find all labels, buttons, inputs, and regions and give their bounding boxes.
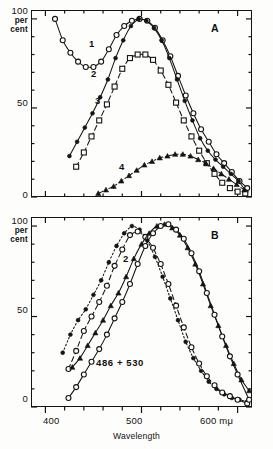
point-2-19: [214, 158, 218, 162]
point-486-filled-2: [76, 318, 80, 322]
point-486-open-5: [104, 283, 109, 288]
point-530-filled-2: [85, 343, 90, 348]
point-3-3: [97, 118, 102, 123]
point-486-open-1: [74, 348, 79, 353]
panel-a-ytick-50: 50: [3, 98, 28, 108]
point-3-21: [235, 189, 240, 194]
point-486-filled-12: [153, 255, 157, 259]
point-486-open-21: [227, 394, 232, 399]
point-1-3: [76, 59, 81, 64]
point-1-0: [53, 16, 58, 21]
panel-b-yunit-cent: cent: [3, 236, 28, 245]
point-530-open-14: [174, 227, 179, 232]
point-4-15: [211, 166, 216, 171]
point-530-open-5: [104, 332, 109, 337]
point-530-open-10: [143, 243, 148, 248]
point-530-open-19: [212, 312, 217, 317]
panel-a-curve-label-1: 1: [89, 38, 94, 49]
panel-b-annotation: 486 + 530: [96, 357, 144, 368]
point-3-20: [227, 186, 232, 191]
panel-a-ytick-100: 100: [3, 6, 28, 16]
point-486-open-3: [89, 314, 94, 319]
point-4-2: [111, 184, 116, 189]
xtick-600: 600 mμ: [200, 416, 233, 426]
point-1-2: [68, 50, 73, 55]
point-530-open-1: [74, 385, 79, 390]
point-1-7: [106, 47, 111, 52]
point-3-15: [189, 134, 194, 139]
point-3-7: [127, 56, 132, 61]
panel-a-ytick-0: 0: [3, 190, 28, 200]
point-2-20: [221, 165, 225, 169]
point-3-4: [104, 102, 109, 107]
point-530-filled-8: [131, 256, 136, 261]
point-486-open-16: [189, 345, 194, 350]
panel-a-label: A: [211, 22, 219, 34]
point-2-12: [160, 38, 164, 42]
point-1-21: [214, 152, 219, 157]
point-4-3: [119, 178, 124, 183]
point-486-open-9: [135, 229, 140, 234]
point-530-open-15: [181, 236, 186, 241]
point-530-open-3: [89, 359, 94, 364]
point-486-open-13: [166, 281, 171, 286]
point-3-11: [158, 68, 163, 73]
point-486-open-18: [204, 374, 209, 379]
point-4-1: [103, 187, 108, 192]
point-486-open-14: [174, 303, 179, 308]
point-530-open-8: [127, 281, 132, 286]
point-2-0: [68, 154, 72, 158]
point-530-open-22: [235, 372, 240, 377]
point-3-6: [120, 66, 125, 71]
panel-b-ytick-100: 100: [3, 216, 28, 226]
point-530-open-17: [197, 269, 202, 274]
point-3-19: [220, 180, 225, 185]
point-3-8: [135, 52, 140, 57]
point-486-filled-8: [122, 231, 126, 235]
panel-a: 100 per cent 50 0 A 1 2 3 4: [0, 0, 273, 205]
point-530-filled-3: [93, 330, 98, 335]
point-2-22: [237, 179, 241, 183]
point-486-filled-9: [130, 224, 134, 228]
point-3-10: [151, 57, 156, 62]
point-486-open-8: [127, 233, 132, 238]
point-2-9: [137, 17, 141, 21]
point-4-7: [149, 159, 154, 164]
point-3-5: [112, 84, 117, 89]
point-1-1: [60, 38, 65, 43]
panel-a-plot: [0, 0, 273, 205]
point-3-13: [174, 100, 179, 105]
panel-a-curve-label-2: 2: [91, 68, 96, 79]
curve-530-open: [68, 224, 249, 400]
point-530-open-23: [247, 397, 252, 402]
point-486-open-20: [220, 390, 225, 395]
point-486-filled-4: [92, 293, 96, 297]
point-530-open-6: [112, 316, 117, 321]
panel-b-ytick-50: 50: [3, 305, 28, 315]
point-530-open-0: [66, 395, 71, 400]
point-4-17: [226, 177, 231, 182]
point-486-filled-6: [107, 260, 111, 264]
point-1-4: [83, 64, 88, 69]
panel-a-yunit-cent: cent: [3, 26, 28, 35]
point-530-open-13: [166, 222, 171, 227]
point-2-2: [83, 126, 87, 130]
point-486-open-11: [151, 245, 156, 250]
point-530-open-11: [151, 231, 156, 236]
point-2-18: [206, 149, 210, 153]
point-2-8: [129, 24, 133, 28]
point-3-9: [143, 52, 148, 57]
panel-b-plot: [0, 205, 273, 449]
point-2-15: [183, 99, 187, 103]
point-530-filled-6: [116, 290, 121, 295]
point-486-open-17: [197, 361, 202, 366]
point-2-17: [198, 136, 202, 140]
point-486-open-22: [235, 397, 240, 402]
point-530-open-21: [227, 354, 232, 359]
point-3-0: [74, 164, 79, 169]
point-3-14: [181, 118, 186, 123]
point-1-19: [199, 127, 204, 132]
point-486-filled-16: [184, 340, 188, 344]
xtick-500: 500: [126, 416, 142, 426]
point-530-filled-7: [124, 274, 129, 279]
